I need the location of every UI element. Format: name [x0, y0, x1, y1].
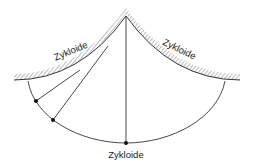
- cycloid-pendulum-diagram: Zykloide Zykloide Zykloide: [0, 0, 254, 167]
- path-label: Zykloide: [108, 149, 143, 160]
- bob-dot-bottom: [124, 141, 128, 145]
- left-cheek-hatching: [14, 8, 126, 80]
- bob-dot-2: [51, 118, 55, 122]
- bob-dot-1: [34, 99, 38, 103]
- bob-cycloid-path: [28, 81, 225, 143]
